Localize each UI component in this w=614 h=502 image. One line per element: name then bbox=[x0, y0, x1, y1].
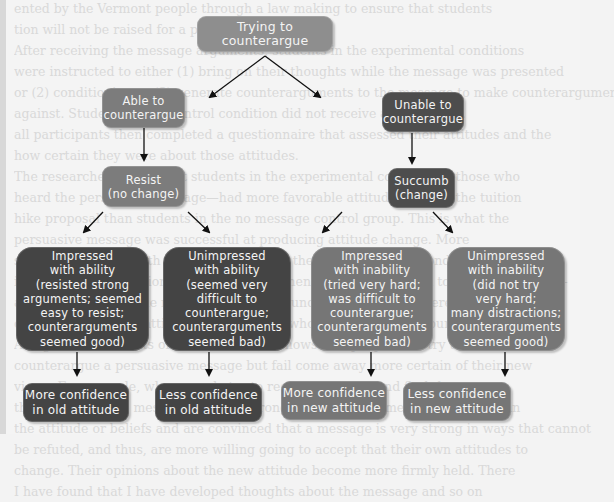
arrow-succumb-to-unimpressed-inability bbox=[433, 212, 452, 232]
node-impressed-with-inability: Impressed with inability (tried very har… bbox=[311, 247, 433, 351]
arrow-root-to-unable bbox=[265, 56, 320, 97]
arrow-succumb-to-impressed-inability bbox=[323, 212, 342, 232]
background-text-line: be refuted, and thus, are more willing g… bbox=[14, 439, 614, 460]
node-resist: Resist (no change) bbox=[102, 166, 185, 207]
node-unable-to-counterargue: Unable to counterargue bbox=[382, 92, 464, 132]
node-more-confidence-old-attitude: More confidence in old attitude bbox=[23, 383, 129, 422]
node-less-confidence-new-attitude: Less confidence in new attitude bbox=[403, 382, 511, 421]
node-less-confidence-old-attitude: Less confidence in old attitude bbox=[155, 383, 262, 422]
node-impressed-with-ability: Impressed with ability (resisted strong … bbox=[16, 247, 149, 351]
node-unimpressed-with-inability: Unimpressed with inability (did not try … bbox=[447, 247, 565, 351]
node-succumb: Succumb (change) bbox=[388, 168, 455, 208]
node-unimpressed-with-ability: Unimpressed with ability (seemed very di… bbox=[163, 247, 291, 351]
node-more-confidence-new-attitude: More confidence in new attitude bbox=[281, 381, 387, 420]
background-text-line: change. Their opinions about the new att… bbox=[14, 460, 614, 481]
node-able-to-counterargue: Able to counterargue bbox=[102, 88, 185, 128]
background-text-line: I have found that I have developed thoug… bbox=[14, 481, 614, 502]
node-trying-to-counterargue: Trying to counterargue bbox=[197, 16, 333, 52]
arrow-root-to-able bbox=[210, 56, 265, 97]
arrow-resist-to-unimpressed-ability bbox=[188, 212, 209, 232]
arrow-resist-to-impressed-ability bbox=[84, 212, 103, 232]
